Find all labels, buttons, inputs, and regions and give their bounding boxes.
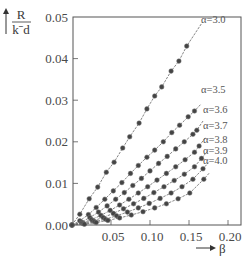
data-point bbox=[82, 222, 87, 227]
y-tick-label: 0.03 bbox=[45, 93, 68, 108]
data-point bbox=[156, 161, 161, 166]
data-point bbox=[191, 132, 196, 137]
x-tick-label: 0.15 bbox=[180, 229, 203, 244]
data-point bbox=[148, 169, 153, 174]
chart: 0.000.010.020.030.040.050.050.100.150.20… bbox=[0, 0, 252, 267]
data-point bbox=[183, 157, 188, 162]
series-group bbox=[70, 22, 210, 227]
series-3.5 bbox=[70, 104, 201, 227]
data-point bbox=[182, 140, 187, 145]
x-tick-label: 0.05 bbox=[102, 229, 125, 244]
series-3.0 bbox=[70, 22, 203, 227]
data-point bbox=[176, 197, 181, 202]
data-point bbox=[136, 206, 141, 211]
data-point bbox=[155, 178, 160, 183]
data-point bbox=[152, 148, 157, 153]
data-point bbox=[105, 204, 110, 209]
y-axis-title-denominator: kˉd bbox=[12, 22, 30, 37]
data-point bbox=[70, 223, 75, 228]
data-point bbox=[121, 207, 126, 212]
data-point bbox=[120, 180, 125, 185]
data-point bbox=[197, 144, 202, 149]
data-point bbox=[152, 206, 157, 211]
data-point bbox=[136, 163, 141, 168]
data-point bbox=[106, 218, 111, 223]
x-tick-label: 0.10 bbox=[141, 229, 164, 244]
data-point bbox=[127, 135, 132, 140]
data-point bbox=[87, 197, 92, 202]
series-label: α=3.8 bbox=[203, 134, 228, 145]
data-point bbox=[136, 191, 141, 196]
data-point bbox=[161, 140, 166, 145]
data-point bbox=[158, 196, 163, 201]
data-point bbox=[164, 202, 169, 207]
y-axis-title-numerator: R bbox=[17, 7, 26, 22]
data-point bbox=[131, 202, 136, 207]
x-axis-title: β bbox=[219, 241, 226, 256]
data-point bbox=[192, 150, 197, 155]
data-point bbox=[141, 209, 146, 214]
y-tick-label: 0.02 bbox=[45, 134, 68, 149]
data-point bbox=[159, 85, 164, 90]
data-point bbox=[145, 184, 150, 189]
data-point bbox=[180, 184, 185, 189]
data-point bbox=[104, 170, 109, 175]
data-point bbox=[184, 44, 189, 49]
data-point bbox=[192, 109, 197, 114]
data-point bbox=[173, 165, 178, 170]
data-point bbox=[182, 172, 187, 177]
data-point bbox=[103, 197, 108, 202]
data-point bbox=[137, 121, 142, 126]
data-point bbox=[117, 203, 122, 208]
y-tick-label: 0.00 bbox=[45, 218, 68, 233]
data-point bbox=[122, 190, 127, 195]
series-label: α=3.7 bbox=[203, 120, 228, 131]
data-point bbox=[173, 147, 178, 152]
data-point bbox=[169, 191, 174, 196]
data-point bbox=[113, 197, 118, 202]
data-point bbox=[164, 171, 169, 176]
series-label: α=3.6 bbox=[203, 104, 228, 115]
data-point bbox=[129, 213, 134, 218]
y-tick-label: 0.01 bbox=[45, 176, 68, 191]
data-point bbox=[111, 189, 116, 194]
data-point bbox=[139, 176, 144, 181]
data-point bbox=[145, 107, 150, 112]
y-axis-title: R kˉd bbox=[3, 7, 31, 37]
data-point bbox=[128, 171, 133, 176]
data-point bbox=[147, 201, 152, 206]
data-point bbox=[177, 59, 182, 64]
labels-group: α=3.0α=3.5α=3.6α=3.7α=3.8α=3.9α=4.0 bbox=[201, 14, 228, 166]
data-point bbox=[162, 184, 167, 189]
data-point bbox=[94, 220, 99, 225]
data-point bbox=[191, 177, 196, 182]
data-point bbox=[152, 94, 157, 99]
series-label: α=3.5 bbox=[201, 84, 226, 95]
data-point bbox=[120, 146, 125, 151]
y-tick-label: 0.05 bbox=[45, 10, 68, 25]
data-point bbox=[186, 115, 191, 120]
data-point bbox=[202, 177, 207, 182]
data-point bbox=[177, 123, 182, 128]
data-point bbox=[188, 191, 193, 196]
data-point bbox=[125, 210, 130, 215]
data-point bbox=[152, 190, 157, 195]
x-axis-arrowhead-icon bbox=[210, 245, 216, 251]
series-line bbox=[72, 138, 205, 225]
data-point bbox=[192, 165, 197, 170]
data-point bbox=[117, 216, 122, 221]
data-point bbox=[195, 128, 200, 133]
data-point bbox=[94, 205, 99, 210]
data-point bbox=[201, 167, 206, 172]
data-point bbox=[169, 69, 174, 74]
data-point bbox=[131, 183, 136, 188]
data-point bbox=[145, 155, 150, 160]
data-point bbox=[112, 160, 117, 165]
data-point bbox=[142, 196, 147, 201]
series-line bbox=[72, 151, 208, 225]
data-point bbox=[78, 212, 83, 217]
data-point bbox=[165, 154, 170, 159]
series-label: α=3.0 bbox=[201, 14, 226, 25]
y-axis-arrowhead-icon bbox=[3, 8, 9, 14]
series-label: α=4.0 bbox=[203, 155, 228, 166]
